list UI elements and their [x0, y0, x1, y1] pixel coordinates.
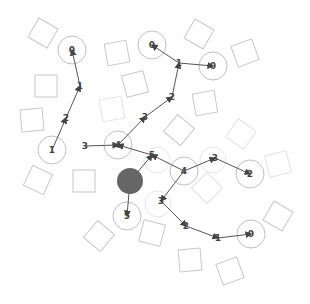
path-segment [218, 234, 251, 238]
step-label: 0 [149, 40, 155, 50]
step-label: 2 [183, 221, 189, 231]
obstacle-square [23, 165, 52, 194]
step-label: 4 [181, 166, 187, 176]
obstacle-square [178, 248, 202, 272]
path-segment [118, 145, 152, 155]
step-label: 1 [215, 233, 221, 243]
step-label: 3 [142, 112, 148, 122]
step-label: 1 [49, 145, 55, 155]
obstacle-square [84, 221, 115, 252]
step-label: 0 [69, 45, 75, 55]
step-label: 0 [210, 61, 216, 71]
waypoint-layer [38, 31, 265, 248]
step-label: 2 [63, 113, 69, 123]
agent-layer [117, 168, 143, 194]
obstacle-square [192, 90, 217, 115]
obstacle-square [216, 257, 244, 285]
step-label: 0 [248, 229, 254, 239]
step-label: 1 [176, 58, 182, 68]
step-label: 3 [82, 141, 88, 151]
path-segment [179, 63, 213, 66]
label-layer: 01213010234543253210 [49, 40, 254, 243]
path-segment [184, 158, 215, 171]
step-label: 3 [158, 196, 164, 206]
step-label: 2 [169, 92, 175, 102]
obstacle-square [28, 18, 58, 48]
obstacle-square [164, 115, 195, 146]
path-segment [85, 145, 118, 146]
path-diagram: 01213010234543253210 [0, 0, 310, 304]
obstacle-square [99, 96, 124, 121]
obstacle-square [139, 220, 166, 247]
obstacle-square [226, 119, 257, 150]
step-label: 3 [212, 153, 218, 163]
obstacle-square [20, 108, 44, 132]
obstacle-square [265, 151, 292, 178]
obstacle-square [184, 19, 214, 49]
obstacle-square [231, 39, 259, 67]
obstacle-square [122, 71, 149, 98]
step-label: 5 [124, 211, 130, 221]
step-label: 4 [115, 140, 121, 150]
obstacle-square [35, 75, 57, 97]
path-segment [186, 226, 218, 238]
obstacle-square [104, 40, 129, 65]
path-segment [215, 158, 250, 174]
obstacle-square [73, 170, 95, 192]
agent-circle [117, 168, 143, 194]
step-label: 2 [247, 169, 253, 179]
step-label: 1 [77, 81, 83, 91]
obstacle-square [263, 201, 293, 231]
step-label: 5 [149, 150, 155, 160]
